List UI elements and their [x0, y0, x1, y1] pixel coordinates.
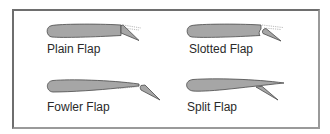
fowler-flap-label: Fowler Flap [47, 101, 110, 114]
split-flap-illustration [187, 79, 284, 100]
slotted-flap-illustration [187, 24, 283, 41]
fowler-flap-surface [140, 85, 160, 100]
fowler-flap-airfoil [47, 80, 139, 92]
plain-flap-illustration [47, 24, 141, 40]
split-flap-label: Split Flap [187, 101, 237, 114]
slotted-flap-label: Slotted Flap [189, 43, 253, 56]
split-flap-airfoil [187, 79, 284, 91]
slotted-flap-airfoil [187, 24, 261, 37]
plain-flap-label: Plain Flap [47, 43, 100, 56]
plain-flap-airfoil [47, 24, 121, 37]
slotted-flap-surface [262, 29, 281, 42]
fowler-flap-illustration [47, 80, 160, 100]
split-flap-surface [256, 86, 278, 100]
